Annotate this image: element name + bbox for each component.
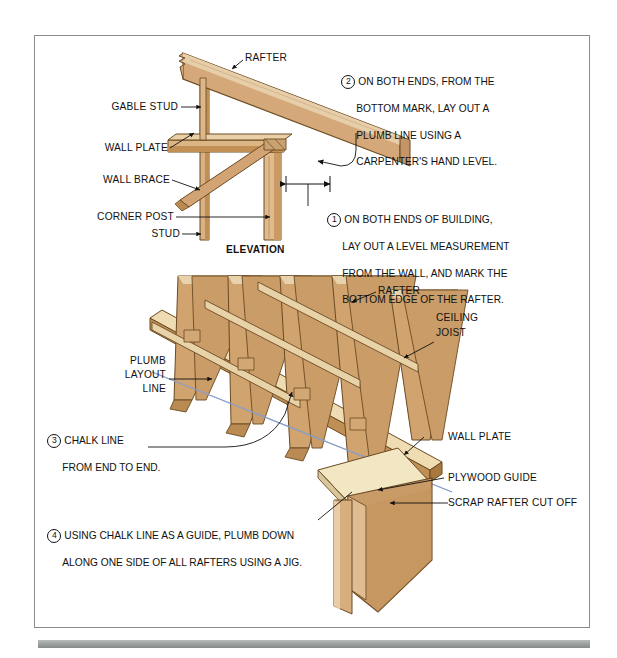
label-scrap-rafter-cut-off: SCRAP RAFTER CUT OFF	[448, 497, 577, 509]
step-2-line-3: PLUMB LINE USING A	[356, 130, 461, 141]
step-4-number: 4	[47, 529, 61, 543]
label-ceiling-joist-line2: JOIST	[436, 327, 466, 339]
label-wall-plate: WALL PLATE	[60, 142, 168, 154]
step-2-line-4: CARPENTER'S HAND LEVEL.	[356, 156, 497, 167]
label-plumb-line3: LINE	[60, 383, 166, 395]
step-2-line-1: ON BOTH ENDS, FROM THE	[358, 75, 494, 88]
label-plumb-line2: LAYOUT	[60, 369, 166, 381]
step-1-number: 1	[327, 213, 341, 227]
step-2-number: 2	[341, 75, 355, 89]
step-3-line-2: FROM END TO END.	[62, 462, 160, 473]
label-plywood-guide: PLYWOOD GUIDE	[448, 472, 537, 484]
step-1-line-3: FROM THE WALL, AND MARK THE	[342, 268, 507, 279]
scrap-rafter-cut-off	[334, 478, 432, 614]
step-1-line-2: LAY OUT A LEVEL MEASUREMENT	[342, 241, 509, 252]
label-rafter-lower: RAFTER	[378, 285, 420, 297]
label-rafter: RAFTER	[245, 52, 287, 64]
step-1-line-4: BOTTOM EDGE OF THE RAFTER.	[342, 294, 504, 305]
step-3-line-1: CHALK LINE	[64, 434, 123, 447]
step-1-line-1: ON BOTH ENDS OF BUILDING,	[344, 213, 492, 226]
label-stud: STUD	[100, 228, 180, 240]
step-1-callout: 1ON BOTH ENDS OF BUILDING, LAY OUT A LEV…	[316, 200, 510, 320]
step-2-callout: 2ON BOTH ENDS, FROM THE BOTTOM MARK, LAY…	[330, 62, 497, 182]
gable-stud-member	[200, 78, 206, 140]
label-wall-plate-lower: WALL PLATE	[448, 431, 511, 443]
caption-elevation: ELEVATION	[226, 244, 285, 256]
label-plumb-line1: PLUMB	[60, 355, 166, 367]
label-wall-brace: WALL BRACE	[52, 174, 170, 186]
step-4-callout: 4USING CHALK LINE AS A GUIDE, PLUMB DOWN…	[36, 516, 302, 583]
stud-member	[264, 152, 281, 240]
step-2-line-2: BOTTOM MARK, LAY OUT A	[356, 103, 489, 114]
step-3-number: 3	[47, 434, 61, 448]
label-corner-post: CORNER POST	[48, 211, 174, 223]
step-4-line-2: ALONG ONE SIDE OF ALL RAFTERS USING A JI…	[62, 557, 302, 568]
step-4-line-1: USING CHALK LINE AS A GUIDE, PLUMB DOWN	[64, 529, 294, 542]
step-3-callout: 3CHALK LINE FROM END TO END.	[36, 421, 160, 488]
label-ceiling-joist-line1: CEILING	[436, 312, 478, 324]
label-gable-stud: GABLE STUD	[60, 101, 178, 113]
birdsmouth-notch	[264, 139, 286, 150]
illustration-stage: RAFTER GABLE STUD WALL PLATE WALL BRACE …	[0, 0, 617, 658]
